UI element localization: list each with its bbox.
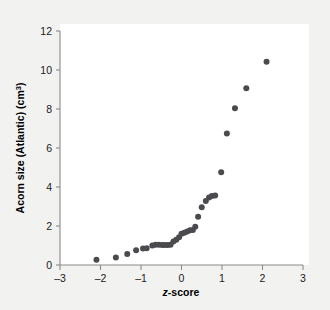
data-point xyxy=(264,59,270,65)
data-point xyxy=(144,245,150,251)
data-point xyxy=(113,255,119,261)
x-tick-label: 2 xyxy=(260,272,266,284)
data-point xyxy=(93,257,99,263)
x-axis-title: z-score xyxy=(162,286,200,298)
data-point xyxy=(195,214,201,220)
data-point xyxy=(218,169,224,175)
data-point xyxy=(133,247,139,253)
x-tick-label: –3 xyxy=(54,272,66,284)
data-point xyxy=(124,251,130,257)
data-point xyxy=(212,193,218,199)
y-tick-label: 10 xyxy=(40,64,52,76)
data-point xyxy=(199,204,205,210)
figure-container: 024681012 –3–2–10123 Acorn size (Atlanti… xyxy=(0,0,330,310)
y-tick-label: 6 xyxy=(46,142,52,154)
y-tick-label: 0 xyxy=(46,259,52,271)
data-point xyxy=(224,131,230,137)
x-tick-label: –1 xyxy=(135,272,147,284)
y-tick-label: 4 xyxy=(46,181,52,193)
scatter-plot: 024681012 –3–2–10123 Acorn size (Atlanti… xyxy=(0,0,330,310)
x-tick-label: 0 xyxy=(179,272,185,284)
x-tick-label: 1 xyxy=(219,272,225,284)
y-tick-label: 8 xyxy=(46,103,52,115)
data-point xyxy=(243,85,249,91)
x-tick-label: 3 xyxy=(300,272,306,284)
x-tick-label: –2 xyxy=(95,272,107,284)
y-axis-title: Acorn size (Atlantic) (cm3) xyxy=(14,83,27,214)
data-point xyxy=(192,224,198,230)
data-point xyxy=(232,105,238,111)
y-tick-label: 12 xyxy=(40,25,52,37)
y-tick-label: 2 xyxy=(46,220,52,232)
plot-area-background xyxy=(60,24,309,265)
